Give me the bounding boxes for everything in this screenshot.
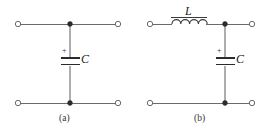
panel-a-terminal-bottom-left[interactable] [15, 100, 20, 105]
panel-a-terminal-top-left[interactable] [15, 21, 20, 26]
panel-a-bottom-junction-dot [68, 101, 73, 106]
panel-b-terminal-bottom-right[interactable] [249, 100, 254, 105]
panel-a-terminal-top-right[interactable] [115, 21, 120, 26]
panel-b-capacitor-polarity-sign: + [217, 47, 222, 55]
panel-b-capacitor-label: C [236, 53, 244, 65]
panel-b-bottom-junction-dot [223, 101, 228, 106]
panel-a-capacitor-label: C [81, 53, 89, 65]
panel-a-capacitor-polarity-sign: + [62, 47, 67, 55]
panel-a-caption: (a) [59, 114, 70, 124]
panel-b-terminal-top-right[interactable] [249, 21, 254, 26]
panel-a-top-junction-dot [68, 22, 73, 27]
panel-b-inductor-coil [172, 20, 207, 24]
panel-a-terminal-bottom-right[interactable] [115, 100, 120, 105]
panel-b-inductor-label: L [185, 5, 192, 17]
panel-b-terminal-top-left[interactable] [147, 21, 152, 26]
circuit-drawing-canvas [0, 0, 268, 134]
panel-b-top-junction-dot [223, 22, 228, 27]
circuit-figure: + C (a) L + C (b) [0, 0, 268, 134]
panel-b-terminal-bottom-left[interactable] [147, 100, 152, 105]
panel-a [15, 21, 120, 105]
panel-b-caption: (b) [194, 114, 205, 124]
